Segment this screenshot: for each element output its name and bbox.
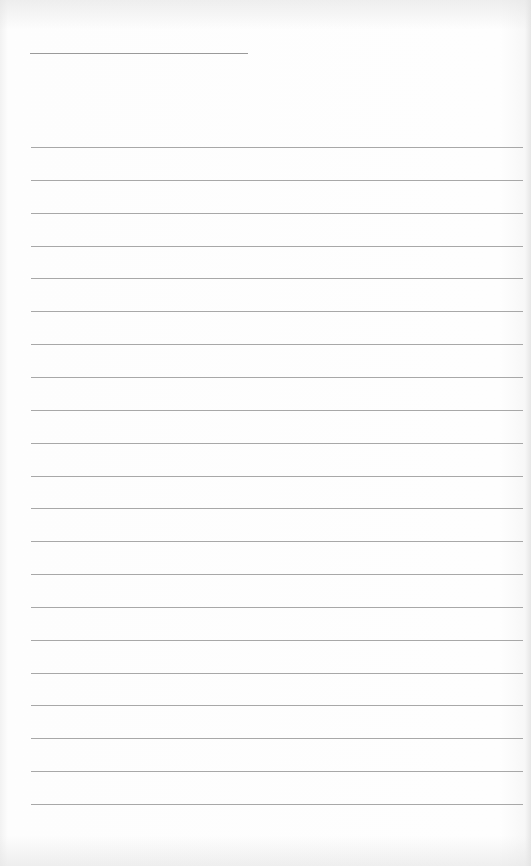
ruled-line (31, 311, 523, 312)
ruled-line (31, 213, 523, 214)
ruled-line (31, 574, 523, 575)
ruled-line (31, 673, 523, 674)
ruled-line (31, 738, 523, 739)
ruled-line (31, 377, 523, 378)
ruled-line (31, 246, 523, 247)
ruled-line (31, 344, 523, 345)
ruled-line (31, 278, 523, 279)
ruled-line (31, 771, 523, 772)
header-line (30, 53, 248, 54)
ruled-line (31, 705, 523, 706)
ruled-line (31, 410, 523, 411)
ruled-line (31, 640, 523, 641)
ruled-line (31, 541, 523, 542)
ruled-line (31, 180, 523, 181)
ruled-line (31, 508, 523, 509)
paper-sheet (0, 0, 531, 866)
ruled-line (31, 443, 523, 444)
show-through-top (0, 0, 531, 30)
ruled-line (31, 147, 523, 148)
ruled-line (31, 607, 523, 608)
show-through-bottom (0, 836, 531, 866)
ruled-line (31, 476, 523, 477)
ruled-line (31, 804, 523, 805)
